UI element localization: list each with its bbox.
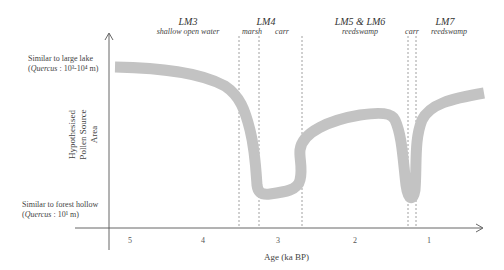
x-tick-5: 5: [125, 236, 135, 245]
zone-lm5-lm6-subtitle: reedswamp: [330, 27, 390, 36]
y-axis-title: Hypothesised Pollen Source Area: [67, 100, 100, 170]
zone-lm7-title: LM7: [425, 16, 465, 27]
y-top-label: Similar to large lake (Quercus : 10³-10⁴…: [28, 54, 98, 74]
y-bottom-label-line1: Similar to forest hollow: [22, 200, 98, 210]
zone-lm3-title: LM3: [158, 16, 218, 27]
zone-lm4-subtitle-carr: carr: [270, 27, 294, 36]
x-axis-title: Age (ka BP): [264, 252, 309, 262]
zone-lm5-lm6-title: LM5 & LM6: [330, 16, 390, 27]
y-axis-title-line3: Area: [89, 100, 100, 170]
x-tick-3: 3: [273, 236, 283, 245]
y-bottom-label: Similar to forest hollow (Quercus : 10¹ …: [22, 200, 98, 220]
zone-lm4-title: LM4: [246, 16, 286, 27]
y-bottom-label-line2: (Quercus : 10¹ m): [22, 210, 98, 220]
y-axis-title-line1: Hypothesised: [67, 100, 78, 170]
x-tick-4: 4: [198, 236, 208, 245]
pollen-source-curve: [115, 67, 484, 198]
y-axis-title-line2: Pollen Source: [78, 100, 89, 170]
y-bottom-label-taxon: Quercus: [25, 210, 52, 219]
zone-lm7-subtitle-carr: carr: [404, 27, 420, 36]
zone-lm7-subtitle-reedswamp: reedswamp: [421, 27, 477, 36]
y-bottom-label-range: : 10¹ m): [51, 210, 79, 219]
x-tick-2: 2: [350, 236, 360, 245]
zone-lm4-subtitle-marsh: marsh: [237, 27, 267, 36]
y-top-label-range: : 10³-10⁴ m): [57, 64, 98, 73]
zone-lm3-subtitle: shallow open water: [143, 27, 233, 36]
y-top-label-taxon: Quercus: [31, 64, 58, 73]
x-tick-1: 1: [424, 236, 434, 245]
y-top-label-line2: (Quercus : 10³-10⁴ m): [28, 64, 98, 74]
y-top-label-line1: Similar to large lake: [28, 54, 98, 64]
